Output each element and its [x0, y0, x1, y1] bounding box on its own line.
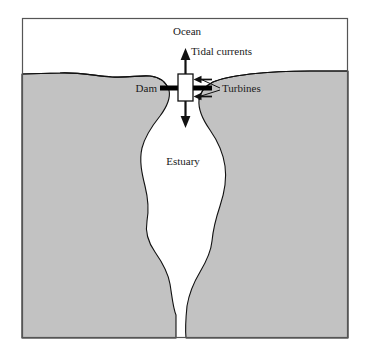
- sluice-gate: [178, 74, 193, 101]
- label-estuary: Estuary: [166, 155, 200, 167]
- label-tidal-currents: Tidal currents: [191, 45, 252, 57]
- label-ocean: Ocean: [173, 25, 202, 37]
- diagram-canvas: Ocean Tidal currents Dam Turbines Estuar…: [0, 0, 365, 357]
- label-turbines: Turbines: [222, 82, 261, 94]
- tidal-power-diagram: Ocean Tidal currents Dam Turbines Estuar…: [0, 0, 365, 357]
- label-dam: Dam: [136, 82, 158, 94]
